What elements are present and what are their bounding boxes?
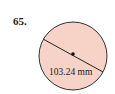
center-point bbox=[71, 52, 75, 56]
circle-diagram: 103.24 mm bbox=[0, 0, 115, 94]
diameter-label: 103.24 mm bbox=[49, 67, 93, 77]
